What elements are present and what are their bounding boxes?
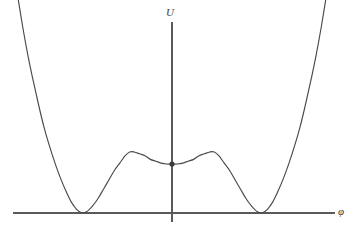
plot-canvas bbox=[0, 0, 360, 232]
u-axis-label: U bbox=[166, 7, 174, 18]
potential-plot-figure: U φ bbox=[0, 0, 360, 232]
local-minimum-dot-marker bbox=[169, 161, 174, 166]
phi-axis-label: φ bbox=[338, 206, 344, 217]
